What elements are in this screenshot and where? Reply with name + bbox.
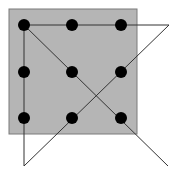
dot-r2-c1 [66,112,78,124]
dot-r1-c1 [66,66,78,78]
dot-r2-c0 [18,112,30,124]
dot-r1-c2 [115,66,127,78]
dot-r0-c1 [66,19,78,31]
dot-r2-c2 [115,112,127,124]
nine-dots-diagram [0,0,180,174]
dot-r0-c2 [115,19,127,31]
nine-dots-puzzle [0,0,180,174]
dot-r1-c0 [18,66,30,78]
dot-r0-c0 [18,19,30,31]
